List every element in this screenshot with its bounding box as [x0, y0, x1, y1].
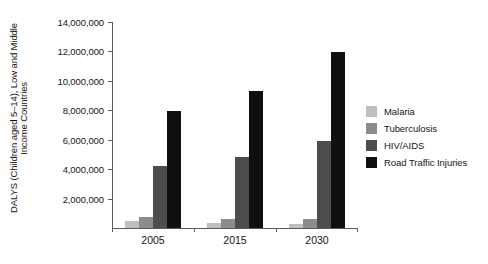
legend-item: Road Traffic Injuries [366, 155, 467, 170]
legend-label: Tuberculosis [384, 123, 437, 134]
x-axis-tick-mark [357, 228, 358, 232]
y-axis-line [112, 22, 113, 228]
x-axis-line [112, 228, 358, 229]
legend-color-swatch [366, 106, 377, 117]
y-axis-tick-label: 10,000,000 [57, 75, 104, 86]
y-axis-tick-mark [108, 22, 112, 23]
y-axis-tick-label: 6,000,000 [63, 134, 104, 145]
x-axis-category-label: 2030 [305, 234, 328, 246]
y-axis-tick-label: 2,000,000 [63, 193, 104, 204]
y-axis-tick-mark [108, 110, 112, 111]
legend-item: HIV/AIDS [366, 138, 467, 153]
x-axis-category-label: 2015 [223, 234, 246, 246]
legend-color-swatch [366, 140, 377, 151]
x-axis-tick-mark [194, 228, 195, 232]
legend-label: Malaria [384, 106, 415, 117]
bar [303, 219, 317, 228]
x-axis-tick-mark [276, 228, 277, 232]
bar [221, 219, 235, 228]
x-axis-tick-mark [112, 228, 113, 232]
y-axis-tick-label: 8,000,000 [63, 105, 104, 116]
bar [125, 221, 139, 228]
legend-color-swatch [366, 157, 377, 168]
chart-legend: MalariaTuberculosisHIV/AIDSRoad Traffic … [366, 104, 467, 172]
bar [167, 111, 181, 228]
y-axis-tick-mark [108, 140, 112, 141]
y-axis-tick-labels: 2,000,0004,000,0006,000,0008,000,00010,0… [36, 0, 108, 264]
bar [289, 224, 303, 228]
legend-item: Tuberculosis [366, 121, 467, 136]
y-axis-tick-mark [108, 169, 112, 170]
bar [249, 91, 263, 228]
bar [153, 166, 167, 228]
legend-label: Road Traffic Injuries [384, 157, 467, 168]
y-axis-tick-mark [108, 51, 112, 52]
x-axis-category-label: 2005 [141, 234, 164, 246]
y-axis-tick-mark [108, 199, 112, 200]
legend-color-swatch [366, 123, 377, 134]
bar [207, 223, 221, 228]
bar [331, 52, 345, 228]
x-axis-tick-labels: 200520152030 [112, 234, 358, 254]
y-axis-title-line-2: Income Countries [19, 82, 29, 155]
bar-chart-figure: DALYS (Children aged 5–14), Low and Midd… [0, 0, 488, 264]
y-axis-tick-label: 4,000,000 [63, 164, 104, 175]
legend-item: Malaria [366, 104, 467, 119]
bar [235, 157, 249, 228]
bar [317, 141, 331, 228]
legend-label: HIV/AIDS [384, 140, 424, 151]
plot-area [112, 22, 358, 228]
y-axis-title: DALYS (Children aged 5–14), Low and Midd… [2, 0, 36, 236]
y-axis-tick-label: 12,000,000 [57, 46, 104, 57]
bar [139, 217, 153, 228]
y-axis-tick-mark [108, 81, 112, 82]
y-axis-tick-label: 14,000,000 [57, 17, 104, 28]
